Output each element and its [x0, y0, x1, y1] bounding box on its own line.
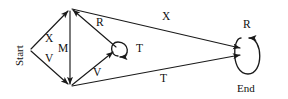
edge-label-x-start-top: X: [45, 33, 53, 45]
edge-label-v-start-bottom: V: [45, 53, 53, 65]
edge-label-r-middle-top: R: [96, 17, 104, 29]
self-loop-end: [235, 38, 260, 74]
edge-middle-to-top: [73, 10, 116, 47]
node-label-start: Start: [14, 45, 25, 66]
edge-label-m-top-bottom: M: [58, 43, 68, 55]
edge-label-v-bottom-middle: V: [93, 67, 101, 79]
edge-label-t-bottom-end: T: [160, 73, 167, 85]
state-diagram-canvas: X V M R V T X T R Start End: [0, 0, 288, 99]
edge-label-t-middle-loop: T: [136, 43, 143, 55]
self-loop-middle: [112, 42, 128, 57]
edge-label-x-top-end: X: [162, 11, 170, 23]
edge-top-to-end: [72, 9, 240, 48]
node-label-end: End: [237, 83, 255, 94]
edge-label-r-end-loop: R: [243, 19, 251, 31]
